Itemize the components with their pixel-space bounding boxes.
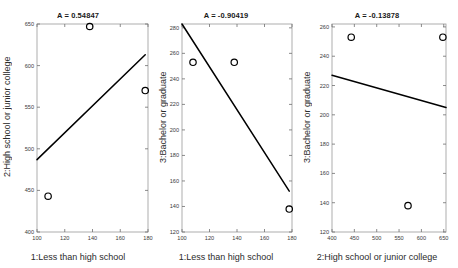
svg-text:100: 100 [177, 235, 186, 241]
panel-3-y-axis-label: 3:Bachelor or graduate [302, 0, 312, 234]
data-point [348, 34, 354, 40]
svg-text:120: 120 [60, 235, 69, 241]
scatter-panel-3: 4004505005506006501201401601802002202402… [296, 0, 458, 268]
svg-text:140: 140 [320, 200, 329, 206]
svg-text:450: 450 [25, 187, 34, 193]
svg-text:140: 140 [232, 235, 241, 241]
svg-text:400: 400 [25, 229, 34, 235]
data-point [142, 87, 148, 93]
scatter-panel-1: 100120140160180400450500550600650 A = 0.… [0, 0, 156, 268]
panel-2-x-axis-label: 1:Less than high school [150, 252, 302, 262]
data-point [45, 193, 51, 199]
svg-text:120: 120 [170, 229, 179, 235]
panel-1-title: A = 0.54847 [0, 11, 156, 20]
svg-text:200: 200 [320, 112, 329, 118]
svg-text:140: 140 [170, 203, 179, 209]
svg-text:200: 200 [170, 127, 179, 133]
svg-text:450: 450 [350, 235, 359, 241]
panel-2-title: A = -0.90419 [150, 11, 302, 20]
svg-text:280: 280 [170, 25, 179, 31]
svg-text:160: 160 [116, 235, 125, 241]
svg-text:260: 260 [170, 50, 179, 56]
svg-text:220: 220 [170, 101, 179, 107]
svg-text:600: 600 [25, 63, 34, 69]
svg-text:650: 650 [25, 21, 34, 27]
svg-text:240: 240 [170, 76, 179, 82]
svg-text:140: 140 [88, 235, 97, 241]
svg-text:240: 240 [320, 53, 329, 59]
svg-text:500: 500 [25, 146, 34, 152]
panel-3-x-axis-label: 2:High school or junior college [296, 252, 458, 262]
svg-text:160: 160 [170, 178, 179, 184]
svg-text:160: 160 [320, 170, 329, 176]
panel-2-axes: 1001201401601801201401601802002202402602… [150, 0, 302, 268]
data-point [190, 59, 196, 65]
svg-text:120: 120 [205, 235, 214, 241]
data-point [405, 202, 411, 208]
svg-text:500: 500 [372, 235, 381, 241]
svg-text:220: 220 [320, 83, 329, 89]
svg-text:400: 400 [327, 235, 336, 241]
panel-3-title: A = -0.13878 [296, 11, 458, 20]
panel-1-x-axis-label: 1:Less than high school [0, 252, 156, 262]
svg-text:160: 160 [260, 235, 269, 241]
svg-text:180: 180 [320, 141, 329, 147]
svg-text:180: 180 [170, 152, 179, 158]
svg-text:550: 550 [25, 104, 34, 110]
svg-text:100: 100 [32, 235, 41, 241]
svg-text:260: 260 [320, 24, 329, 30]
data-point [440, 34, 446, 40]
data-point [231, 59, 237, 65]
svg-text:600: 600 [417, 235, 426, 241]
scatter-panel-2: 1001201401601801201401601802002202402602… [150, 0, 302, 268]
panel-1-y-axis-label: 2:High school or junior college [2, 0, 12, 234]
panel-1-axes: 100120140160180400450500550600650 [0, 0, 156, 268]
svg-text:650: 650 [439, 235, 448, 241]
panel-2-y-axis-label: 3:Bachelor or graduate [158, 0, 168, 234]
panel-3-axes: 4004505005506006501201401601802002202402… [296, 0, 458, 268]
svg-text:120: 120 [320, 229, 329, 235]
svg-text:550: 550 [394, 235, 403, 241]
